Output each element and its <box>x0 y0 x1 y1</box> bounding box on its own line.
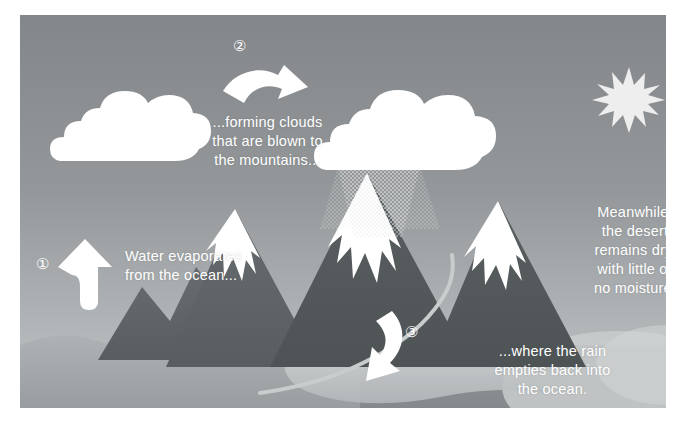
diagram-canvas: ① ② ③ Water evaporates from the ocean...… <box>0 0 686 438</box>
caption-desert-note: Meanwhile, the desert remains dry, with … <box>575 203 666 298</box>
caption-step-1: Water evaporates from the ocean... <box>125 247 242 285</box>
water-cycle-illustration: ① ② ③ Water evaporates from the ocean...… <box>20 15 666 408</box>
step-marker-2: ② <box>233 37 246 55</box>
caption-step-3: ...where the rain empties back into the … <box>460 342 645 399</box>
rain-halftone <box>320 167 440 237</box>
caption-step-2: ...forming clouds that are blown to the … <box>200 113 335 170</box>
step-marker-3: ③ <box>405 323 418 341</box>
step-marker-1: ① <box>36 255 49 273</box>
